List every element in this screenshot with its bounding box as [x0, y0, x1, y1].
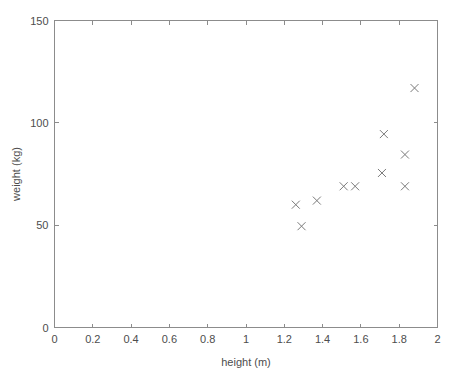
x-tick-label: 1.6 [353, 333, 368, 345]
plot-frame [55, 21, 438, 328]
chart-canvas: 00.20.40.60.811.21.41.61.82 050100150 he… [0, 0, 461, 373]
x-tick-label: 0.4 [123, 333, 138, 345]
data-point-markers [292, 84, 419, 230]
data-point-marker [411, 84, 419, 92]
x-tick-label: 1.8 [392, 333, 407, 345]
data-point-marker [292, 201, 300, 209]
x-tick-label: 1.4 [315, 333, 330, 345]
x-tick-label: 1 [243, 333, 249, 345]
x-tick-label: 0.6 [162, 333, 177, 345]
data-point-marker [380, 130, 388, 138]
y-tick-label: 150 [30, 15, 48, 27]
y-tick-label: 50 [36, 219, 48, 231]
x-tick-label: 2 [434, 333, 440, 345]
x-tick-label: 1.2 [277, 333, 292, 345]
data-point-marker [340, 182, 348, 190]
data-point-marker [313, 197, 321, 205]
data-point-marker [401, 151, 409, 159]
x-axis-label: height (m) [221, 356, 271, 368]
x-axis-tick-labels: 00.20.40.60.811.21.41.61.82 [51, 333, 440, 345]
x-tick-label: 0 [51, 333, 57, 345]
plot-box-border [55, 21, 438, 328]
data-point-marker [378, 169, 386, 177]
x-axis-ticks [55, 21, 438, 328]
y-axis-ticks [55, 21, 438, 328]
y-axis-tick-labels: 050100150 [30, 15, 48, 334]
data-point-marker [401, 182, 409, 190]
x-tick-label: 0.2 [85, 333, 100, 345]
data-point-marker [298, 222, 306, 230]
y-tick-label: 0 [42, 322, 48, 334]
y-tick-label: 100 [30, 117, 48, 129]
y-axis-label: weight (kg) [10, 147, 22, 202]
scatter-plot-figure: 00.20.40.60.811.21.41.61.82 050100150 he… [0, 0, 461, 373]
x-tick-label: 0.8 [200, 333, 215, 345]
data-point-marker [351, 182, 359, 190]
